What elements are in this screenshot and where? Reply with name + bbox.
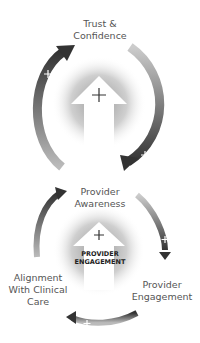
label-line: Engagement <box>124 291 200 303</box>
node-provider-engagement: Provider Engagement <box>124 279 200 303</box>
arrowhead-icon <box>66 311 76 324</box>
node-provider-awareness: Provider Awareness <box>60 186 140 210</box>
label-line: Trust & <box>60 18 140 30</box>
bottom-arc-arrow-icon <box>72 313 137 323</box>
center-label-provider-engagement: PROVIDER ENGAGEMENT <box>64 250 136 266</box>
label-line: With Clinical <box>5 284 71 296</box>
node-alignment-clinical-care: Alignment With Clinical Care <box>5 272 71 308</box>
label-line: Provider <box>60 186 140 198</box>
label-line: Confidence <box>60 30 140 42</box>
label-line: Care <box>5 296 71 308</box>
label-line: PROVIDER <box>64 250 136 258</box>
label-line: Alignment <box>5 272 71 284</box>
label-line: Provider <box>124 279 200 291</box>
arrowhead-icon <box>159 252 171 260</box>
label-line: ENGAGEMENT <box>64 258 136 266</box>
label-line: Awareness <box>60 198 140 210</box>
node-trust-confidence: Trust & Confidence <box>60 18 140 42</box>
